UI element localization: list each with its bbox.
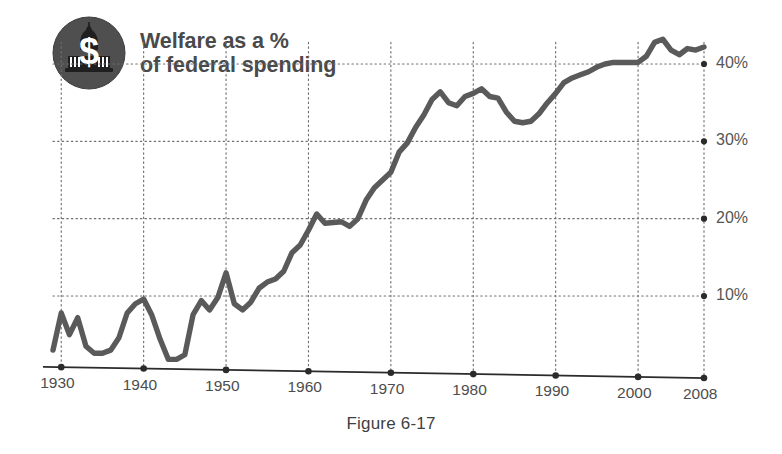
x-axis-tick-label: 2008 <box>683 385 717 403</box>
y-axis-tick-label: 30% <box>716 131 748 149</box>
x-axis-tick-label: 1970 <box>370 380 404 398</box>
x-axis-tick-label: 1950 <box>205 377 239 395</box>
x-axis-tick-label: 1990 <box>535 382 569 400</box>
grid-lines <box>53 42 704 378</box>
figure-caption: Figure 6-17 <box>0 414 782 434</box>
y-axis-tick-label: 10% <box>716 286 748 304</box>
data-series-line <box>53 39 704 359</box>
x-axis-tick-label: 1930 <box>40 374 74 392</box>
figure-container: $ Welfare as a % of federal spending 10%… <box>0 0 782 454</box>
x-axis-tick-label: 1940 <box>123 376 157 394</box>
y-axis-tick-label: 20% <box>716 209 748 227</box>
x-axis-tick-label: 2000 <box>617 384 651 402</box>
x-axis-tick-label: 1980 <box>452 381 486 399</box>
y-axis-tick-label: 40% <box>716 54 748 72</box>
x-axis-tick-label: 1960 <box>287 378 321 396</box>
